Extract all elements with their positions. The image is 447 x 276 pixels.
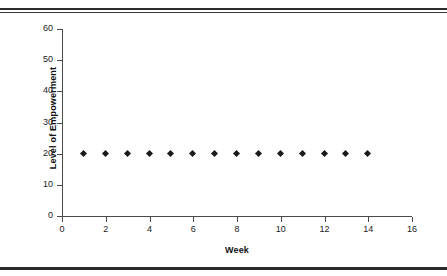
data-point	[102, 150, 109, 157]
x-tick-mark	[237, 217, 238, 222]
x-tick-mark	[281, 217, 282, 222]
top-rule-primary	[0, 8, 447, 10]
data-point	[80, 150, 87, 157]
data-point	[211, 150, 218, 157]
y-tick-label: 0	[29, 211, 53, 220]
top-rule-secondary	[0, 12, 447, 13]
x-tick-label: 10	[266, 224, 296, 234]
x-tick-label: 16	[397, 224, 427, 234]
x-tick-mark	[368, 217, 369, 222]
data-point	[320, 150, 327, 157]
data-point	[277, 150, 284, 157]
x-tick-label: 8	[222, 224, 252, 234]
figure-container: 0102030405060 0246810121416 Week Level o…	[0, 0, 447, 276]
x-tick-label: 2	[91, 224, 121, 234]
data-point	[364, 150, 371, 157]
data-point	[124, 150, 131, 157]
data-point	[255, 150, 262, 157]
x-axis-title: Week	[62, 245, 412, 255]
bottom-rule	[0, 267, 447, 270]
y-axis-title: Level of Empowerment	[48, 24, 58, 212]
data-point	[189, 150, 196, 157]
x-tick-label: 14	[353, 224, 383, 234]
x-tick-mark	[193, 217, 194, 222]
x-tick-label: 12	[310, 224, 340, 234]
data-point	[342, 150, 349, 157]
y-axis-line	[62, 29, 63, 217]
data-point	[233, 150, 240, 157]
data-point	[145, 150, 152, 157]
x-tick-mark	[412, 217, 413, 222]
x-tick-mark	[150, 217, 151, 222]
x-tick-mark	[62, 217, 63, 222]
x-tick-mark	[325, 217, 326, 222]
x-tick-mark	[106, 217, 107, 222]
data-point	[167, 150, 174, 157]
x-tick-label: 6	[178, 224, 208, 234]
x-tick-label: 0	[47, 224, 77, 234]
x-tick-label: 4	[135, 224, 165, 234]
data-point	[299, 150, 306, 157]
